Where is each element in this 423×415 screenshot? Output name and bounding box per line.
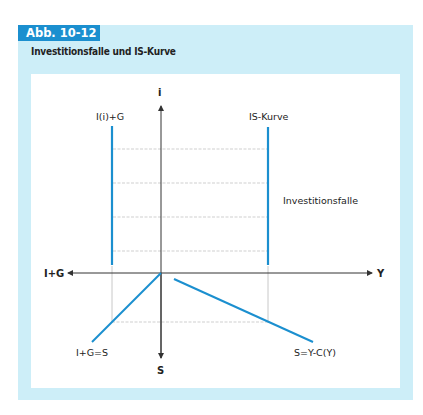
savings-line	[174, 279, 313, 342]
investment-trap-label: Investitionsfalle	[283, 195, 358, 206]
interest-rate-guides	[112, 149, 268, 322]
investment-curve-label: I(i)+G	[96, 111, 124, 122]
axis-label-ig: I+G	[44, 268, 64, 279]
is-curve-label: IS-Kurve	[249, 111, 289, 122]
axis-label-s: S	[157, 365, 164, 376]
equilibrium-line	[92, 273, 161, 342]
savings-label: S=Y-C(Y)	[294, 347, 336, 358]
axis-label-i: i	[158, 87, 161, 98]
projection-guides	[112, 266, 268, 322]
equilibrium-label: I+G=S	[76, 347, 108, 358]
four-quadrant-diagram: i S I+G Y I(i)+G IS-Kurve Investitionsfa…	[0, 0, 423, 415]
axis-label-y: Y	[376, 268, 385, 279]
